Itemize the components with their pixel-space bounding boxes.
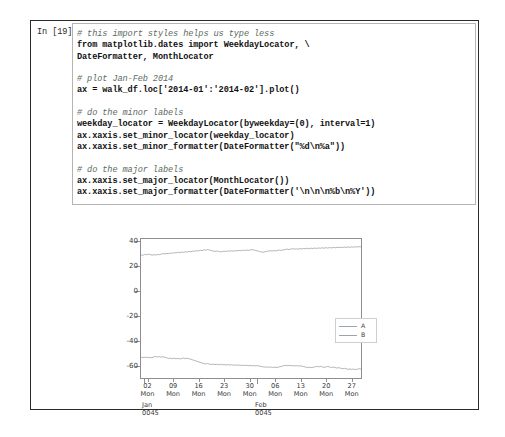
code-line [77,153,471,164]
legend-label-b: B [361,332,365,338]
code-line: # do the minor labels [77,108,471,119]
series-paths [141,239,361,378]
legend-swatch-b [339,335,357,336]
legend-swatch-a [339,326,357,327]
series-a-line [141,247,361,256]
code-line: # plot Jan-Feb 2014 [77,74,471,85]
code-line [77,97,471,108]
x-major-tick-mark [144,379,145,384]
code-input-row: In [19]: # this import styles helps us t… [31,21,478,205]
legend-label-a: A [361,323,365,329]
code-line [77,63,471,74]
matplotlib-figure: 40200-20-40-60 A B [72,205,432,410]
code-line: ax.xaxis.set_minor_locator(weekday_locat… [77,131,471,142]
code-line: ax.xaxis.set_major_formatter(DateFormatt… [77,187,471,198]
y-tick-label: 0 [78,287,138,295]
x-major-tick-label: Feb 0045 [255,401,315,418]
x-minor-tick-label: 27 Mon [332,382,372,399]
notebook-cell: In [19]: # this import styles helps us t… [30,20,479,410]
y-tick-label: -60 [78,362,138,370]
code-line: ax.xaxis.set_major_locator(MonthLocator(… [77,176,471,187]
y-tick-label: 20 [78,262,138,270]
y-tick-label: -40 [78,337,138,345]
code-line: ax.xaxis.set_minor_formatter(DateFormatt… [77,142,471,153]
cell-output-row: 40200-20-40-60 A B [31,205,478,410]
y-tick-label: -20 [78,312,138,320]
legend: A B [335,318,377,343]
code-line: # this import styles helps us type less [77,29,471,40]
x-major-tick-label: Jan 0045 [142,401,202,418]
code-line: ax = walk_df.loc['2014-01':'2014-02'].pl… [77,85,471,96]
code-line: weekday_locator = WeekdayLocator(byweekd… [77,119,471,130]
series-b-line [141,357,361,370]
prompt-gutter: In [19]: [31,21,72,205]
x-major-tick-mark [257,379,258,384]
code-editor[interactable]: # this import styles helps us type lessf… [72,23,476,205]
code-line: # do the major labels [77,165,471,176]
y-tick-label: 40 [78,237,138,245]
execution-count-label: In [19]: [37,27,68,37]
legend-entry-a: A [339,322,373,331]
plot-area: A B [140,238,362,379]
legend-entry-b: B [339,331,373,340]
code-line: DateFormatter, MonthLocator [77,52,471,63]
code-line: from matplotlib.dates import WeekdayLoca… [77,40,471,51]
